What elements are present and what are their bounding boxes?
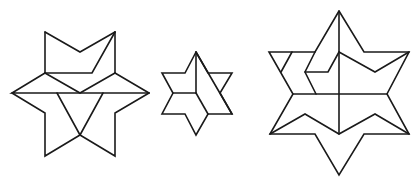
star-left-segment — [80, 93, 103, 135]
star-left-segment — [57, 93, 80, 135]
star-right-segment — [281, 52, 292, 72]
hexagram-figures — [0, 0, 418, 185]
star-right-segment — [339, 52, 409, 72]
star-left-segment — [12, 93, 149, 156]
star-left-segment — [12, 73, 149, 93]
star-middle-segment — [196, 93, 208, 114]
star-right-segment — [305, 52, 316, 94]
star-left-segment — [45, 73, 115, 93]
star-left-segment — [45, 32, 115, 52]
star-left — [12, 32, 149, 156]
star-middle — [162, 52, 232, 135]
diagram-canvas — [0, 0, 418, 185]
star-left-segment — [115, 73, 149, 93]
star-right — [269, 11, 409, 175]
